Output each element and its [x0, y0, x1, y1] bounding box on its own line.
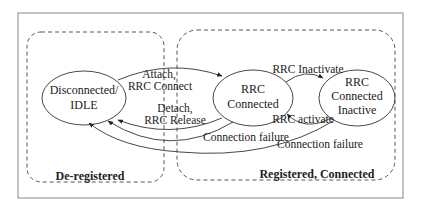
state-inactive-line2: Connected [331, 89, 382, 103]
state-inactive-line3: Inactive [338, 103, 377, 117]
label-rrc-activate: RRC activate [272, 113, 334, 125]
state-idle-line1: Disconnected/ [50, 83, 119, 97]
arrow-rrc-inactivate [286, 74, 323, 82]
state-inactive-line1: RRC [345, 75, 369, 89]
region-label-deregistered: De-registered [56, 169, 125, 183]
state-idle: Disconnected/ IDLE [42, 71, 126, 125]
region-label-registered: Registered, Connected [259, 167, 374, 181]
state-connected-line1: RRC [241, 82, 265, 96]
label-connection-failure-2: Connection failure [277, 138, 363, 150]
label-attach-line2: RRC Connect [128, 80, 193, 92]
rrc-state-diagram: Disconnected/ IDLE RRC Connected RRC Con… [0, 0, 435, 219]
state-connected-line2: Connected [227, 97, 278, 111]
label-rrc-inactivate: RRC Inactivate [272, 63, 343, 75]
label-detach-line2: RRC Release [144, 114, 206, 126]
state-idle-line2: IDLE [70, 98, 97, 112]
